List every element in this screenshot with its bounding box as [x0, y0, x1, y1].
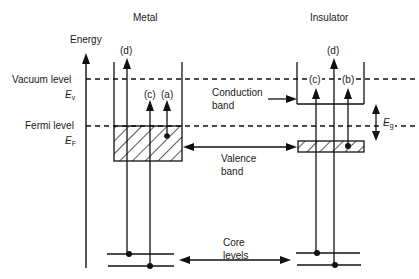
- insulator-label-d: (d): [327, 45, 339, 56]
- metal-filled-band: [114, 126, 182, 161]
- insulator-label-b: (b): [341, 74, 355, 85]
- energy-axis-arrowhead: [82, 53, 90, 64]
- conduction-band-label-line1: Conduction: [212, 87, 263, 98]
- metal-valence-electron: [164, 133, 170, 139]
- insulator-title: Insulator: [310, 12, 348, 23]
- insulator-core-electron-1: [314, 250, 320, 256]
- insulator-label-c: (c): [308, 74, 322, 85]
- conduction-band-label-line2: band: [212, 100, 234, 111]
- metal-title: Metal: [133, 12, 157, 23]
- metal-label-c: (c): [144, 89, 156, 100]
- metal-label-d: (d): [120, 45, 132, 56]
- metal-label-a: (a): [161, 89, 173, 100]
- vacuum-level-label: Vacuum level: [12, 74, 71, 85]
- core-levels-label-line1: Core: [223, 237, 245, 248]
- valence-band-label-line1: Valence: [221, 153, 256, 164]
- energy-axis-label: Energy: [70, 34, 102, 45]
- valence-band-label-line2: band: [221, 166, 243, 177]
- band-gap-symbol: Eg: [382, 117, 395, 131]
- insulator-core-electron-2: [332, 262, 338, 268]
- vacuum-level-symbol: Ev: [65, 89, 75, 103]
- metal-core-electron-2: [147, 263, 153, 269]
- fermi-level-label: Fermi level: [25, 120, 74, 131]
- fermi-level-symbol: EF: [65, 135, 76, 149]
- band-diagram: [0, 0, 419, 279]
- insulator-valence-band: [298, 141, 364, 152]
- metal-core-electron-1: [126, 251, 132, 257]
- metal-band: [114, 62, 182, 161]
- core-levels-label-line2: levels: [223, 250, 249, 261]
- insulator-valence-electron: [345, 143, 351, 149]
